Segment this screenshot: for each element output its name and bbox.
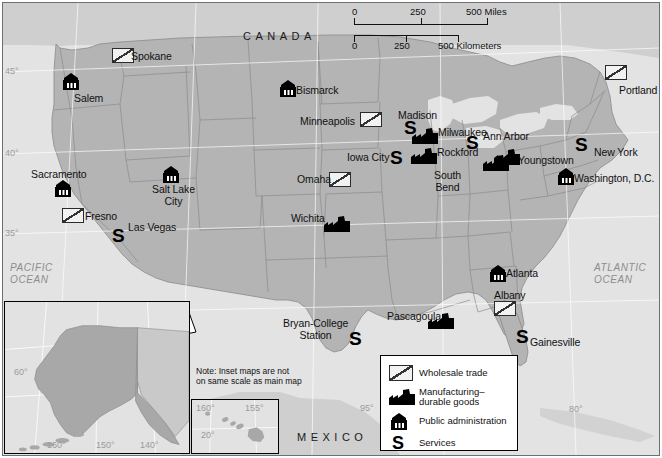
region-label: MEXICO xyxy=(297,431,367,443)
alaska-inset-map xyxy=(4,301,190,454)
graticule-label: 35° xyxy=(5,228,19,238)
manufacturing-durable-goods-icon xyxy=(324,216,350,232)
city-label: Salem xyxy=(74,93,103,104)
public-administration-icon xyxy=(488,265,508,282)
ocean-label: ATLANTIC OCEAN xyxy=(594,262,646,286)
city-label: Omaha xyxy=(297,174,331,185)
wholesale-trade-icon xyxy=(360,112,382,127)
graticule-label: 45° xyxy=(5,66,19,76)
city-label: Rockford xyxy=(437,147,478,158)
city-label: Wichita xyxy=(291,213,325,224)
wholesale-trade-icon xyxy=(62,208,84,223)
city-label: Spokane xyxy=(131,51,172,62)
graticule-label: 95° xyxy=(360,403,374,413)
legend-item-public-administration: Public administration xyxy=(381,410,517,432)
hawaii-graticule-label: 20° xyxy=(201,430,215,440)
alaska-graticule-label: 150° xyxy=(96,440,115,450)
scale-miles-end: 500 Miles xyxy=(466,6,507,17)
public-administration-icon xyxy=(61,73,81,90)
hawaii-graticule-label: 160° xyxy=(196,403,215,413)
city-label: Gainesville xyxy=(530,337,580,348)
legend-label-public-administration: Public administration xyxy=(419,416,507,427)
city-label: Fresno xyxy=(85,211,117,222)
manufacturing-durable-goods-icon xyxy=(411,148,437,164)
manufacturing-durable-goods-icon xyxy=(412,128,438,144)
city-label: Albany xyxy=(494,290,526,301)
wholesale-trade-icon xyxy=(329,172,351,187)
public-administration-icon xyxy=(389,411,419,431)
services-icon: S xyxy=(112,226,125,245)
city-label: Ann Arbor xyxy=(483,131,529,142)
alaska-graticule-label: 140° xyxy=(140,440,159,450)
services-icon: S xyxy=(516,327,529,346)
scale-km-zero: 0 xyxy=(352,40,357,51)
city-label: Bismarck xyxy=(296,85,338,96)
legend-item-wholesale-trade: Wholesale trade xyxy=(381,362,517,384)
legend-item-manufacturing: Manufacturing– durable goods xyxy=(381,384,517,410)
alaska-graticule-label: 60° xyxy=(14,367,28,377)
map-figure: 0 250 500 Miles 0 250 500 Kilometers CAN… xyxy=(0,0,662,458)
services-icon: S xyxy=(389,433,419,453)
city-label: Bryan-College Station xyxy=(283,318,348,341)
services-icon: S xyxy=(390,148,403,167)
legend-label-services: Services xyxy=(419,438,455,449)
legend-label-manufacturing: Manufacturing– durable goods xyxy=(419,387,484,408)
graticule-label: 80° xyxy=(569,404,583,414)
city-label: Las Vegas xyxy=(128,222,176,233)
region-label: CANADA xyxy=(243,30,316,42)
city-label: South Bend xyxy=(434,170,461,193)
city-label: Iowa City xyxy=(347,152,389,163)
wholesale-trade-icon xyxy=(605,65,627,80)
manufacturing-durable-goods-icon xyxy=(389,387,419,407)
legend-label-wholesale-trade: Wholesale trade xyxy=(419,368,488,379)
city-label: Madison xyxy=(398,110,437,121)
city-label: Pascagoula xyxy=(387,311,441,322)
city-label: Atlanta xyxy=(506,268,538,279)
city-label: Salt Lake City xyxy=(152,184,195,207)
manufacturing-durable-goods-icon xyxy=(483,155,509,171)
scale-km-mid: 250 xyxy=(394,40,410,51)
city-label: Washington, D.C. xyxy=(574,173,654,184)
public-administration-icon xyxy=(278,80,298,97)
services-icon: S xyxy=(575,135,588,154)
city-label: Milwaukee xyxy=(438,127,487,138)
alaska-graticule-label: 160° xyxy=(47,440,66,450)
wholesale-trade-icon xyxy=(389,363,419,383)
city-label: Youngstown xyxy=(518,155,574,166)
scale-miles-zero: 0 xyxy=(352,6,357,17)
ocean-label: PACIFIC OCEAN xyxy=(10,262,53,286)
wholesale-trade-icon xyxy=(494,301,516,316)
city-label: New York xyxy=(594,147,638,158)
graticule-label: 40° xyxy=(5,148,19,158)
city-label: Portland xyxy=(619,85,657,96)
scale-km-end: 500 Kilometers xyxy=(438,40,501,51)
city-label: Sacramento xyxy=(31,169,87,180)
inset-scale-note: Note: Inset maps are not on same scale a… xyxy=(196,366,302,386)
city-label: Minneapolis xyxy=(300,116,355,127)
scale-bar: 0 250 500 Miles 0 250 500 Kilometers xyxy=(348,6,516,50)
services-icon: S xyxy=(349,329,362,348)
legend-item-services: S Services xyxy=(381,432,517,454)
scale-miles-mid: 250 xyxy=(410,6,426,17)
public-administration-icon xyxy=(161,166,181,183)
hawaii-graticule-label: 155° xyxy=(245,403,264,413)
public-administration-icon xyxy=(556,168,576,185)
legend-box: Wholesale trade Manufacturing– durable g… xyxy=(380,355,518,451)
public-administration-icon xyxy=(53,180,73,197)
